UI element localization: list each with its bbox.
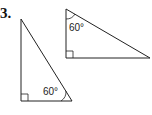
- triangle-figures: 60° 60°: [0, 0, 152, 115]
- angle-label-2: 60°: [69, 22, 84, 33]
- angle-label-1: 60°: [43, 86, 58, 97]
- triangle-1: 60°: [21, 19, 72, 101]
- triangle-2: 60°: [66, 9, 150, 58]
- angle-arc-1: [61, 91, 66, 101]
- right-angle-marker-2: [66, 51, 73, 58]
- angle-arc-2: [66, 14, 75, 19]
- right-angle-marker-1: [21, 94, 28, 101]
